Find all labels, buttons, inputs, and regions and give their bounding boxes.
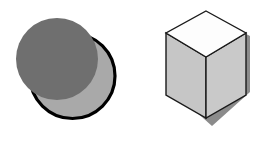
shapes-svg xyxy=(0,0,261,149)
front-circle xyxy=(16,18,98,100)
illustration-canvas: Two geometric shape illustrations: overl… xyxy=(0,0,261,149)
